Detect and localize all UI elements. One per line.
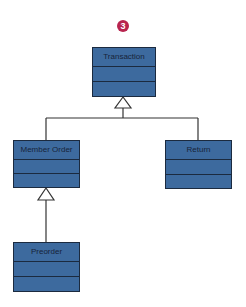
generalization-arrow-member-order xyxy=(38,188,54,200)
operations-section xyxy=(93,82,155,96)
attributes-section xyxy=(166,160,231,175)
class-name-member-order: Member Order xyxy=(14,141,79,160)
class-name-preorder: Preorder xyxy=(14,243,79,262)
class-name-return: Return xyxy=(166,141,231,160)
class-preorder: Preorder xyxy=(13,242,80,292)
operations-section xyxy=(14,174,79,187)
generalization-arrow-transaction xyxy=(115,97,131,108)
class-transaction: Transaction xyxy=(92,47,156,97)
class-member-order: Member Order xyxy=(13,140,80,188)
class-name-transaction: Transaction xyxy=(93,48,155,67)
attributes-section xyxy=(14,160,79,174)
operations-section xyxy=(14,277,79,291)
operations-section xyxy=(166,175,231,189)
class-return: Return xyxy=(165,140,232,189)
attributes-section xyxy=(14,262,79,277)
step-number-badge: 3 xyxy=(117,20,129,32)
attributes-section xyxy=(93,67,155,82)
